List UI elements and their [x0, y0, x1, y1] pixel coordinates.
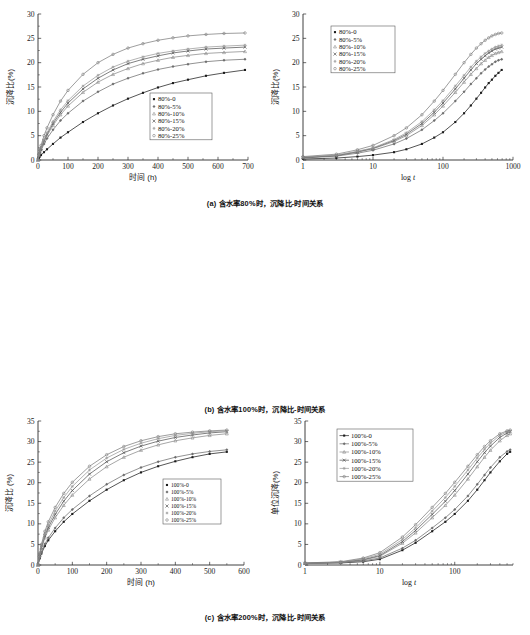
- svg-text:100%-5%: 100%-5%: [171, 489, 194, 495]
- chart-a-right: 0510152025301101001000log t沉降比(%)80%-080…: [265, 0, 530, 195]
- panel-a-right: 0510152025301101001000log t沉降比(%)80%-080…: [265, 0, 530, 195]
- svg-text:5: 5: [296, 131, 300, 140]
- chart-b-right: 05101520253035110100log t单位沉降(%)100%-010…: [265, 407, 530, 602]
- svg-text:80%-15%: 80%-15%: [339, 50, 366, 57]
- figure-row-b: 051015202530350100200300400500600时间 (h)沉…: [0, 407, 530, 602]
- svg-text:15: 15: [27, 83, 35, 92]
- svg-text:300: 300: [122, 162, 134, 171]
- svg-text:沉降比 (%): 沉降比 (%): [4, 473, 14, 512]
- svg-text:30: 30: [292, 10, 300, 19]
- panel-b-left: 051015202530350100200300400500600时间 (h)沉…: [0, 407, 265, 602]
- svg-text:100%-25%: 100%-25%: [351, 473, 381, 480]
- svg-text:单位沉降(%): 单位沉降(%): [270, 471, 280, 516]
- svg-text:0: 0: [31, 156, 35, 165]
- svg-text:0: 0: [296, 156, 300, 165]
- figure-row-a: 0510152025300100200300400500600700时间 (h)…: [0, 0, 530, 195]
- svg-text:100%-15%: 100%-15%: [171, 503, 197, 509]
- svg-text:20: 20: [27, 478, 35, 487]
- svg-text:10: 10: [292, 107, 300, 116]
- svg-text:100%-15%: 100%-15%: [351, 457, 381, 464]
- svg-text:100: 100: [67, 567, 79, 576]
- svg-text:80%-0: 80%-0: [158, 95, 176, 102]
- svg-text:1: 1: [303, 567, 307, 576]
- svg-text:700: 700: [242, 162, 254, 171]
- svg-text:500: 500: [204, 567, 216, 576]
- svg-text:1: 1: [301, 162, 305, 171]
- svg-text:100%-20%: 100%-20%: [171, 510, 197, 516]
- svg-text:80%-10%: 80%-10%: [158, 110, 185, 117]
- svg-text:80%-25%: 80%-25%: [339, 65, 366, 72]
- chart-b-left: 051015202530350100200300400500600时间 (h)沉…: [0, 407, 265, 602]
- svg-text:15: 15: [27, 499, 35, 508]
- svg-text:600: 600: [212, 162, 224, 171]
- svg-text:500: 500: [182, 162, 194, 171]
- svg-text:log t: log t: [402, 578, 417, 587]
- svg-text:0: 0: [36, 567, 40, 576]
- figure-container: 0510152025300100200300400500600700时间 (h)…: [0, 0, 530, 635]
- svg-text:时间 (h): 时间 (h): [129, 172, 157, 182]
- svg-text:1000: 1000: [505, 162, 520, 171]
- svg-text:10: 10: [294, 519, 302, 528]
- svg-text:10: 10: [376, 567, 384, 576]
- svg-text:80%-20%: 80%-20%: [339, 58, 366, 65]
- svg-text:100%-10%: 100%-10%: [171, 496, 197, 502]
- svg-text:200: 200: [101, 567, 113, 576]
- svg-text:80%-0: 80%-0: [339, 28, 357, 35]
- svg-text:600: 600: [238, 567, 250, 576]
- svg-text:15: 15: [294, 499, 302, 508]
- svg-text:30: 30: [294, 437, 302, 446]
- svg-text:35: 35: [294, 417, 302, 426]
- panel-a-left: 0510152025300100200300400500600700时间 (h)…: [0, 0, 265, 195]
- svg-text:300: 300: [135, 567, 147, 576]
- svg-text:20: 20: [27, 58, 35, 67]
- svg-text:100: 100: [449, 567, 461, 576]
- svg-text:100%-0: 100%-0: [351, 432, 373, 439]
- svg-text:80%-20%: 80%-20%: [158, 125, 185, 132]
- svg-text:100%-25%: 100%-25%: [171, 517, 197, 523]
- svg-text:0: 0: [36, 162, 40, 171]
- svg-text:100: 100: [62, 162, 74, 171]
- svg-text:10: 10: [27, 519, 35, 528]
- svg-text:100%-0: 100%-0: [171, 482, 189, 488]
- svg-text:25: 25: [27, 458, 35, 467]
- caption-c: (c) 含水率200%时，沉降比-时间关系: [0, 611, 530, 622]
- svg-text:20: 20: [294, 478, 302, 487]
- svg-text:35: 35: [27, 417, 35, 426]
- svg-text:时间 (h): 时间 (h): [127, 577, 155, 587]
- svg-text:80%-15%: 80%-15%: [158, 117, 185, 124]
- svg-text:10: 10: [27, 107, 35, 116]
- svg-text:25: 25: [27, 34, 35, 43]
- svg-text:30: 30: [27, 437, 35, 446]
- svg-text:400: 400: [152, 162, 164, 171]
- panel-b-right: 05101520253035110100log t单位沉降(%)100%-010…: [265, 407, 530, 602]
- svg-text:80%-5%: 80%-5%: [158, 103, 182, 110]
- svg-text:80%-10%: 80%-10%: [339, 43, 366, 50]
- svg-text:20: 20: [292, 58, 300, 67]
- caption-b: (b) 含水率100%时，沉降比-时间关系: [0, 403, 530, 414]
- svg-text:400: 400: [170, 567, 182, 576]
- caption-a: (a) 含水率80%时，沉降比-时间关系: [0, 197, 530, 208]
- svg-text:200: 200: [92, 162, 104, 171]
- svg-text:100%-20%: 100%-20%: [351, 465, 381, 472]
- svg-text:0: 0: [31, 561, 35, 570]
- svg-text:100: 100: [437, 162, 449, 171]
- svg-text:25: 25: [294, 458, 302, 467]
- svg-text:5: 5: [31, 540, 35, 549]
- svg-text:30: 30: [27, 10, 35, 19]
- svg-text:沉降比(%): 沉降比(%): [5, 69, 15, 106]
- svg-text:80%-25%: 80%-25%: [158, 132, 185, 139]
- svg-text:15: 15: [292, 83, 300, 92]
- svg-text:80%-5%: 80%-5%: [339, 36, 363, 43]
- svg-text:10: 10: [369, 162, 377, 171]
- svg-text:5: 5: [298, 540, 302, 549]
- svg-text:25: 25: [292, 34, 300, 43]
- svg-text:5: 5: [31, 131, 35, 140]
- chart-a-left: 0510152025300100200300400500600700时间 (h)…: [0, 0, 265, 195]
- svg-text:0: 0: [298, 561, 302, 570]
- svg-text:100%-10%: 100%-10%: [351, 448, 381, 455]
- svg-text:沉降比(%): 沉降比(%): [270, 69, 280, 106]
- svg-text:log t: log t: [401, 173, 416, 182]
- svg-text:100%-5%: 100%-5%: [351, 440, 378, 447]
